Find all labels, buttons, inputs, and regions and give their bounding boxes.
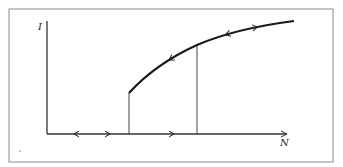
y-axis-label: I bbox=[37, 21, 43, 32]
upper-branch-curve bbox=[129, 21, 294, 93]
stray-mark bbox=[19, 150, 21, 152]
threshold-lines bbox=[129, 45, 197, 134]
x-axis-label: N bbox=[279, 137, 290, 148]
hysteresis-diagram: I N bbox=[0, 0, 343, 167]
diagram-canvas: I N bbox=[0, 0, 343, 167]
